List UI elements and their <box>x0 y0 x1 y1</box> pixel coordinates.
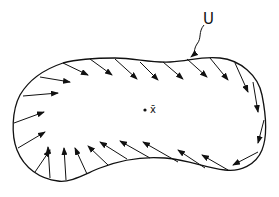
vector-arrow <box>210 58 228 80</box>
vector-arrow <box>100 142 127 159</box>
region-label-leader-arrow <box>191 25 204 57</box>
region-label: U <box>203 10 214 28</box>
vector-arrow <box>75 148 87 174</box>
vector-arrow <box>253 82 258 112</box>
vector-arrow <box>115 59 137 79</box>
vector-arrow <box>258 120 264 143</box>
vector-arrow <box>88 146 108 165</box>
vector-arrow <box>23 93 58 96</box>
vector-arrow <box>18 132 45 148</box>
vector-arrow <box>163 62 183 79</box>
center-point-label: x̄ <box>150 104 156 115</box>
vector-arrow <box>14 112 44 123</box>
vector-arrow <box>35 150 50 172</box>
vector-arrow <box>143 142 178 162</box>
center-point-dot <box>143 108 146 111</box>
vector-arrow <box>235 63 248 92</box>
region-boundary <box>13 58 266 182</box>
diagram-canvas: x̄ U <box>0 0 279 197</box>
vector-arrow <box>178 150 205 168</box>
vector-arrow <box>63 63 88 75</box>
vector-arrow <box>233 152 258 165</box>
vector-arrow <box>90 59 112 75</box>
vector-arrow <box>64 148 66 180</box>
vector-arrow <box>187 59 207 77</box>
vector-arrow <box>140 62 158 80</box>
vector-field-arrows <box>14 58 264 180</box>
vector-arrow <box>40 77 70 82</box>
